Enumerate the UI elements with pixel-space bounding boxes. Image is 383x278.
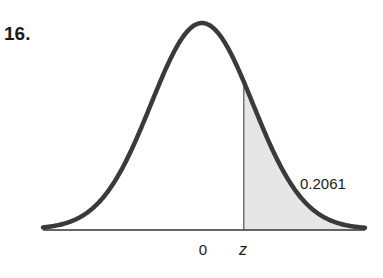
normal-curve-chart: 0 z 0.2061 [0,0,383,278]
mean-label: 0 [199,241,207,258]
shaded-tail-area [244,82,365,230]
normal-curve [43,23,365,228]
z-label: z [238,241,247,258]
area-label: 0.2061 [300,175,346,192]
